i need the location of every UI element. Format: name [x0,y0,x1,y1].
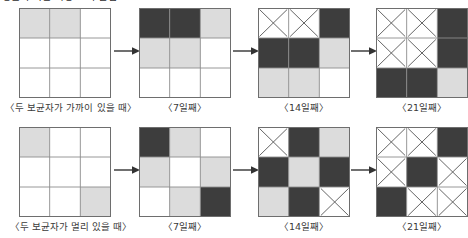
panel-caption: 〈두 보균자가 가까이 있을 때〉 [0,101,150,115]
cell-light [170,127,201,157]
cell-empty [200,127,231,157]
cell-light [170,187,201,217]
grid-panel [19,8,111,98]
arrow-right-icon [350,163,378,177]
panel-caption: 〈두 보균자가 멀리 있을 때〉 [0,220,150,234]
arrow-right-icon [232,163,260,177]
cell-light [437,68,468,98]
cell-empty [19,157,50,187]
cell-light [19,127,50,157]
cell-dark [170,8,201,38]
cell-empty [200,38,231,68]
arrow-right-icon [113,44,141,58]
panel-caption: 〈7일째〉 [139,101,231,115]
grid-near-day21 [376,8,468,98]
cell-empty [80,68,111,98]
cell-empty [50,68,81,98]
cell-light [19,8,50,38]
cell-dark [258,38,289,68]
cell-dark [437,8,468,38]
cell-empty [80,157,111,187]
cell-light [200,8,231,38]
grid-far-day0 [19,127,111,217]
grid-near-day0 [19,8,111,98]
grid-panel [139,127,231,217]
cell-dark [139,127,170,157]
arrow-right-icon [350,44,378,58]
cell-empty [170,157,201,187]
grid-panel [376,8,468,98]
cell-light [170,38,201,68]
cell-empty [200,68,231,98]
sequence-row-far: 〈두 보균자가 멀리 있을 때〉 〈7일째〉 〈14일째〉 〈21일째〉 [0,119,467,238]
grid-panel [258,8,350,98]
cell-light [258,187,289,217]
sequence-row-near: 〈두 보균자가 가까이 있을 때〉 〈7일째〉 〈14일째〉 〈21일째〉 [0,0,467,119]
cell-dark [376,68,407,98]
grid-panel [139,8,231,98]
cell-dark [407,157,438,187]
cell-empty [139,187,170,217]
cell-light [319,127,350,157]
grid-panel [376,127,468,217]
cell-empty [50,157,81,187]
cell-dark [319,157,350,187]
cell-empty [80,38,111,68]
cell-light [289,157,320,187]
cell-light [139,157,170,187]
arrow-right-icon [232,44,260,58]
cell-dark [289,38,320,68]
grid-panel [19,127,111,217]
cell-light [289,68,320,98]
cell-empty [50,38,81,68]
cell-dark [376,187,407,217]
grid-near-day14 [258,8,350,98]
cell-dark [437,127,468,157]
panel-caption: 〈21일째〉 [376,101,468,115]
cell-dark [319,8,350,38]
cell-light [200,157,231,187]
cell-dark [258,157,289,187]
cell-empty [19,187,50,217]
cell-empty [170,68,201,98]
cell-light [258,68,289,98]
cell-dark [289,187,320,217]
grid-panel [258,127,350,217]
panel-caption: 〈21일째〉 [376,220,468,234]
cell-dark [289,127,320,157]
panel-caption: 〈7일째〉 [139,220,231,234]
grid-near-day7 [139,8,231,98]
cell-empty [139,68,170,98]
cell-light [80,187,111,217]
panel-caption: 〈14일째〉 [258,101,350,115]
cell-empty [50,187,81,217]
cell-empty [19,68,50,98]
grid-far-day7 [139,127,231,217]
grid-far-day21 [376,127,468,217]
cell-dark [139,8,170,38]
cell-empty [50,127,81,157]
panel-caption: 〈14일째〉 [258,220,350,234]
cell-light [139,38,170,68]
cell-empty [80,127,111,157]
cell-empty [80,8,111,38]
cell-dark [407,68,438,98]
cell-dark [200,187,231,217]
cell-empty [19,38,50,68]
cell-dark [437,38,468,68]
cell-empty [319,68,350,98]
arrow-right-icon [113,163,141,177]
grid-far-day14 [258,127,350,217]
cell-light [50,8,81,38]
cell-light [319,38,350,68]
